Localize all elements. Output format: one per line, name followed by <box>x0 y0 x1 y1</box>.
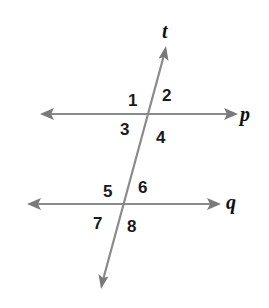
angle-7-label: 7 <box>93 214 102 233</box>
angle-5-label: 5 <box>103 182 112 201</box>
angle-2-label: 2 <box>162 86 171 105</box>
parallel-lines-diagram: t p q 1 2 3 4 5 6 7 8 <box>0 0 269 308</box>
angle-8-label: 8 <box>127 217 136 236</box>
line-t-segment <box>103 55 164 280</box>
angle-6-label: 6 <box>138 178 147 197</box>
angle-1-label: 1 <box>128 91 137 110</box>
line-p <box>40 108 238 120</box>
line-t <box>99 46 169 289</box>
label-q: q <box>226 191 236 214</box>
angle-3-label: 3 <box>120 120 129 139</box>
label-p: p <box>238 103 250 126</box>
label-t: t <box>162 20 169 42</box>
angle-4-label: 4 <box>156 128 166 147</box>
